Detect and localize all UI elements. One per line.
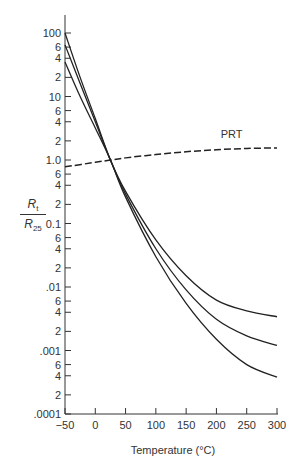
y-tick-label: 100 <box>43 27 61 39</box>
thermistor-curve <box>65 33 277 317</box>
y-tick-label: .0001 <box>33 408 61 420</box>
y-minor-tick-label: 2 <box>55 71 61 83</box>
y-axis-label: Rt R25 <box>18 197 48 234</box>
prt-curve <box>65 148 277 167</box>
x-tick-label: 150 <box>177 419 195 431</box>
x-tick-label: 300 <box>268 419 286 431</box>
y-tick-label: 1.0 <box>46 154 61 166</box>
x-tick-label: 50 <box>119 419 131 431</box>
y-minor-tick-label: 2 <box>55 262 61 274</box>
y-minor-tick-label: 4 <box>55 52 61 64</box>
x-tick-label: 0 <box>92 419 98 431</box>
series-group <box>65 33 277 377</box>
thermistor-curve <box>65 62 277 377</box>
y-minor-tick-label: 2 <box>55 389 61 401</box>
x-tick-label: 200 <box>207 419 225 431</box>
y-minor-tick-label: 2 <box>55 135 61 147</box>
axes <box>65 15 278 414</box>
y-minor-tick-label: 4 <box>55 243 61 255</box>
y-minor-tick-label: 4 <box>55 370 61 382</box>
y-minor-tick-label: 4 <box>55 179 61 191</box>
labels-group: −50050100150200250300Temperature (°C)100… <box>33 27 286 456</box>
x-axis-label: Temperature (°C) <box>131 444 215 456</box>
prt-label: PRT <box>221 128 243 140</box>
x-tick-label: −50 <box>56 419 75 431</box>
thermistor-curve <box>65 45 277 346</box>
y-minor-tick-label: 4 <box>55 116 61 128</box>
x-tick-label: 100 <box>147 419 165 431</box>
y-minor-tick-label: 2 <box>55 325 61 337</box>
y-tick-label: .01 <box>46 281 61 293</box>
y-tick-label: 10 <box>49 91 61 103</box>
y-tick-label: .001 <box>40 345 61 357</box>
y-minor-tick-label: 4 <box>55 306 61 318</box>
y-minor-tick-label: 2 <box>55 198 61 210</box>
x-tick-label: 250 <box>238 419 256 431</box>
